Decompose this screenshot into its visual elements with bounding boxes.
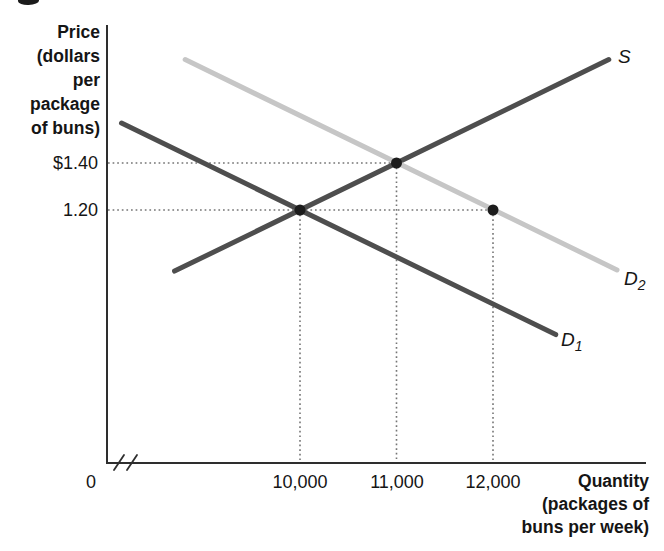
x-tick-11000: 11,000: [352, 472, 442, 493]
y-tick-1-40: $1.40: [8, 153, 98, 174]
marker-dot-equilibrium-S-D1: [295, 205, 306, 216]
x-axis-title: Quantity (packages of buns per week): [449, 470, 649, 539]
supply-demand-figure: Price (dollars per package of buns) $1.4…: [0, 0, 664, 551]
x-tick-10000: 10,000: [255, 472, 345, 493]
demand2-curve-label: D2: [624, 268, 646, 290]
marker-dot-quantity-demanded-on-D2-at-1.20: [488, 205, 499, 216]
marker-dot-equilibrium-S-D2: [391, 158, 402, 169]
demand1-curve-label: D1: [561, 329, 583, 351]
y-axis-title: Price (dollars per package of buns): [0, 20, 100, 140]
supply-curve-label: S: [618, 46, 631, 68]
x-tick-origin: 0: [68, 472, 114, 493]
y-tick-1-20: 1.20: [8, 200, 98, 221]
